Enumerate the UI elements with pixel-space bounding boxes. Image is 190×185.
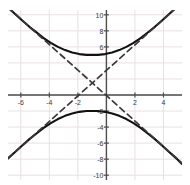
x-tick-label: 4 — [162, 99, 166, 106]
y-tick-label: 8 — [100, 27, 104, 34]
mask-right — [182, 0, 190, 185]
hyperbola-chart-figure: -6-4-2241086-2-4-6-8-10 — [0, 0, 190, 185]
y-tick-label: -4 — [97, 124, 103, 131]
mask-left — [0, 0, 8, 185]
hyperbola-plot-svg — [0, 0, 190, 185]
chart-background — [0, 0, 190, 185]
y-tick-label: -10 — [93, 172, 103, 179]
mask-top — [0, 0, 190, 10]
y-tick-label: 10 — [96, 11, 104, 18]
y-tick-label: 6 — [100, 43, 104, 50]
y-tick-label: -8 — [97, 156, 103, 163]
x-tick-label: -6 — [18, 99, 24, 106]
x-tick-label: -2 — [75, 99, 81, 106]
x-tick-label: 2 — [133, 99, 137, 106]
x-tick-label: -4 — [46, 99, 52, 106]
y-tick-label: -2 — [97, 108, 103, 115]
y-tick-label: -6 — [97, 140, 103, 147]
mask-bottom — [0, 180, 190, 185]
